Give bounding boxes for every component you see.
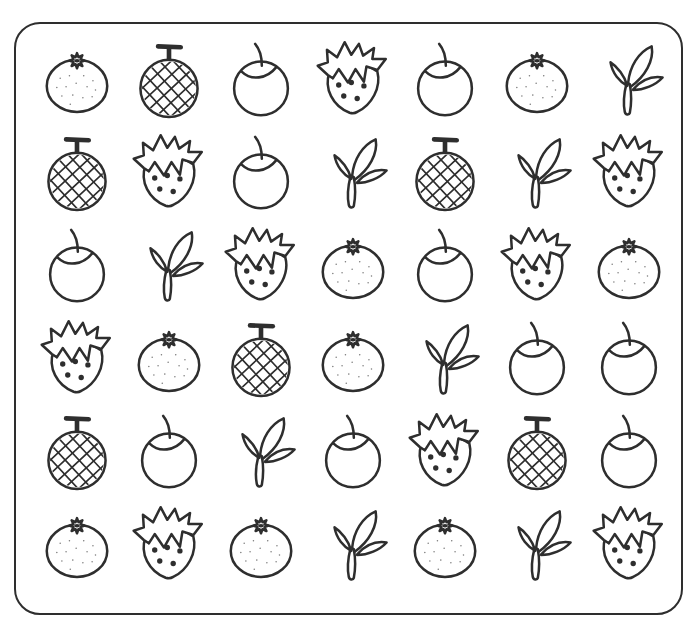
grid-cell-r3-c4[interactable] bbox=[307, 219, 399, 312]
grid-cell-r1-c7[interactable] bbox=[583, 33, 675, 126]
grid-cell-r2-c2[interactable] bbox=[123, 126, 215, 219]
worksheet-page bbox=[0, 0, 695, 634]
grid-cell-r1-c5[interactable] bbox=[399, 33, 491, 126]
orange-icon bbox=[587, 224, 671, 308]
melon-icon bbox=[35, 131, 119, 215]
melon-icon bbox=[403, 131, 487, 215]
grid-cell-r2-c3[interactable] bbox=[215, 126, 307, 219]
apple-icon bbox=[219, 38, 303, 122]
grid-cell-r1-c6[interactable] bbox=[491, 33, 583, 126]
melon-icon bbox=[35, 410, 119, 494]
grid-cell-r6-c1[interactable] bbox=[31, 498, 123, 591]
grid-cell-r1-c3[interactable] bbox=[215, 33, 307, 126]
grid-cell-r4-c7[interactable] bbox=[583, 312, 675, 405]
grid-cell-r4-c5[interactable] bbox=[399, 312, 491, 405]
grid-cell-r2-c4[interactable] bbox=[307, 126, 399, 219]
apple-icon bbox=[587, 317, 671, 401]
grid-cell-r5-c1[interactable] bbox=[31, 405, 123, 498]
worksheet-sheet bbox=[14, 22, 683, 615]
orange-icon bbox=[495, 38, 579, 122]
grid-cell-r1-c2[interactable] bbox=[123, 33, 215, 126]
apple-icon bbox=[311, 410, 395, 494]
sprout-icon bbox=[311, 503, 395, 587]
melon-icon bbox=[127, 38, 211, 122]
grid-cell-r6-c3[interactable] bbox=[215, 498, 307, 591]
sprout-icon bbox=[403, 317, 487, 401]
strawberry-icon bbox=[127, 503, 211, 587]
orange-icon bbox=[35, 38, 119, 122]
grid-cell-r2-c1[interactable] bbox=[31, 126, 123, 219]
apple-icon bbox=[219, 131, 303, 215]
strawberry-icon bbox=[35, 317, 119, 401]
apple-icon bbox=[495, 317, 579, 401]
orange-icon bbox=[35, 503, 119, 587]
orange-icon bbox=[311, 317, 395, 401]
apple-icon bbox=[403, 224, 487, 308]
grid-cell-r6-c6[interactable] bbox=[491, 498, 583, 591]
grid-cell-r4-c1[interactable] bbox=[31, 312, 123, 405]
grid-cell-r2-c7[interactable] bbox=[583, 126, 675, 219]
grid-cell-r3-c1[interactable] bbox=[31, 219, 123, 312]
apple-icon bbox=[587, 410, 671, 494]
grid-cell-r5-c5[interactable] bbox=[399, 405, 491, 498]
grid-cell-r1-c4[interactable] bbox=[307, 33, 399, 126]
strawberry-icon bbox=[403, 410, 487, 494]
orange-icon bbox=[127, 317, 211, 401]
grid-cell-r6-c4[interactable] bbox=[307, 498, 399, 591]
grid-cell-r1-c1[interactable] bbox=[31, 33, 123, 126]
strawberry-icon bbox=[587, 503, 671, 587]
sprout-icon bbox=[219, 410, 303, 494]
melon-icon bbox=[495, 410, 579, 494]
strawberry-icon bbox=[127, 131, 211, 215]
grid-cell-r5-c6[interactable] bbox=[491, 405, 583, 498]
grid-cell-r5-c3[interactable] bbox=[215, 405, 307, 498]
grid-cell-r4-c4[interactable] bbox=[307, 312, 399, 405]
grid-cell-r5-c7[interactable] bbox=[583, 405, 675, 498]
grid-cell-r5-c4[interactable] bbox=[307, 405, 399, 498]
grid-cell-r3-c6[interactable] bbox=[491, 219, 583, 312]
grid-cell-r4-c3[interactable] bbox=[215, 312, 307, 405]
orange-icon bbox=[219, 503, 303, 587]
fruit-grid bbox=[31, 33, 675, 591]
grid-cell-r2-c6[interactable] bbox=[491, 126, 583, 219]
sprout-icon bbox=[495, 131, 579, 215]
grid-cell-r5-c2[interactable] bbox=[123, 405, 215, 498]
sprout-icon bbox=[495, 503, 579, 587]
grid-cell-r3-c5[interactable] bbox=[399, 219, 491, 312]
apple-icon bbox=[35, 224, 119, 308]
strawberry-icon bbox=[587, 131, 671, 215]
strawberry-icon bbox=[311, 38, 395, 122]
grid-cell-r6-c5[interactable] bbox=[399, 498, 491, 591]
grid-cell-r4-c6[interactable] bbox=[491, 312, 583, 405]
sprout-icon bbox=[127, 224, 211, 308]
grid-cell-r3-c2[interactable] bbox=[123, 219, 215, 312]
orange-icon bbox=[403, 503, 487, 587]
grid-cell-r6-c2[interactable] bbox=[123, 498, 215, 591]
grid-cell-r3-c3[interactable] bbox=[215, 219, 307, 312]
grid-cell-r3-c7[interactable] bbox=[583, 219, 675, 312]
strawberry-icon bbox=[495, 224, 579, 308]
orange-icon bbox=[311, 224, 395, 308]
grid-cell-r2-c5[interactable] bbox=[399, 126, 491, 219]
melon-icon bbox=[219, 317, 303, 401]
grid-cell-r4-c2[interactable] bbox=[123, 312, 215, 405]
apple-icon bbox=[403, 38, 487, 122]
grid-cell-r6-c7[interactable] bbox=[583, 498, 675, 591]
sprout-icon bbox=[311, 131, 395, 215]
strawberry-icon bbox=[219, 224, 303, 308]
sprout-icon bbox=[587, 38, 671, 122]
apple-icon bbox=[127, 410, 211, 494]
